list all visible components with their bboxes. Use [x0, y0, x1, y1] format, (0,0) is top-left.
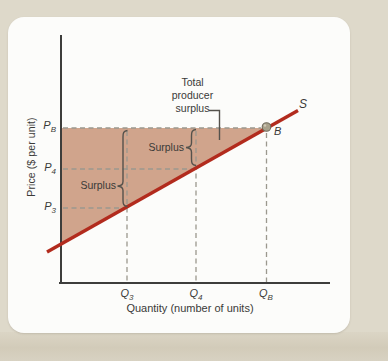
- price-tick-p3: P3: [26, 200, 56, 213]
- quantity-tick-qb: QB: [251, 287, 281, 300]
- quantity-tick-q3-base: Q: [120, 287, 129, 299]
- surplus-label-q4: Surplus: [134, 141, 184, 153]
- total-label-line1: Total: [150, 76, 235, 89]
- price-tick-pb-base: P: [43, 119, 50, 131]
- price-tick-p4-sub: 4: [52, 167, 56, 176]
- total-label-line3: surplus: [150, 102, 235, 115]
- quantity-tick-qb-sub: B: [268, 293, 273, 302]
- price-tick-pb-sub: B: [51, 125, 56, 134]
- surplus-label-q3: Surplus: [66, 179, 116, 191]
- quantity-tick-q4-sub: 4: [198, 293, 202, 302]
- total-label-line2: producer: [150, 89, 235, 102]
- price-tick-p3-sub: 3: [52, 206, 56, 215]
- quantity-tick-q3: Q3: [112, 287, 142, 300]
- price-tick-p4-base: P: [44, 161, 51, 173]
- quantity-tick-q4-base: Q: [189, 287, 198, 299]
- price-tick-p4: P4: [26, 161, 56, 174]
- x-axis-title: Quantity (number of units): [90, 302, 290, 315]
- quantity-tick-q3-sub: 3: [129, 293, 133, 302]
- supply-curve-label: S: [299, 98, 315, 112]
- point-b-highlight: [264, 124, 266, 126]
- point-b-label: B: [274, 125, 288, 138]
- total-producer-surplus-label: Total producer surplus: [150, 76, 235, 115]
- price-tick-pb: PB: [26, 119, 56, 132]
- quantity-tick-qb-base: Q: [259, 287, 268, 299]
- price-tick-p3-base: P: [44, 200, 51, 212]
- textbook-figure: Price ($ per unit) PB P4 P3 Q3 Q4 QB Qua…: [0, 0, 388, 361]
- point-b-marker: [262, 123, 271, 132]
- quantity-tick-q4: Q4: [181, 287, 211, 300]
